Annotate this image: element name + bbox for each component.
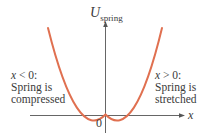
y-axis-label: Uspring <box>90 7 123 20</box>
left-condition: x < 0: <box>11 69 65 81</box>
left-condition-text: < 0: <box>16 69 37 81</box>
y-axis-symbol: U <box>90 5 100 20</box>
left-region-annotation: x < 0: Spring is compressed <box>11 69 65 105</box>
right-condition-text: > 0: <box>160 69 181 81</box>
right-description-line1: Spring is <box>155 81 197 93</box>
right-condition: x > 0: <box>155 69 197 81</box>
left-description-line1: Spring is <box>11 81 65 93</box>
x-axis-arrow-icon <box>179 113 185 118</box>
right-region-annotation: x > 0: Spring is stretched <box>155 69 197 105</box>
origin-label: 0 <box>96 117 102 129</box>
right-description-line2: stretched <box>155 93 197 105</box>
y-axis-subscript: spring <box>100 13 123 23</box>
x-axis-label: x <box>188 109 193 121</box>
left-description-line2: compressed <box>11 93 65 105</box>
